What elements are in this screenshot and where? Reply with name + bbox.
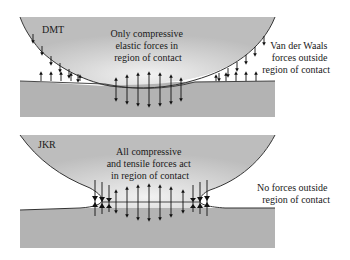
dmt-side-text: Van der Waals forces outside region of c… [262, 40, 330, 75]
contact-mechanics-diagram: DMT Only compressive elastic forces in r… [0, 0, 350, 260]
jkr-center-text: All compressive and tensile forces act i… [107, 146, 194, 181]
jkr-side-text: No forces outside region of contact [257, 182, 330, 205]
dmt-substrate [20, 81, 275, 117]
jkr-substrate [20, 208, 275, 248]
dmt-center-text: Only compressive elastic forces in regio… [111, 28, 186, 63]
jkr-model-label: JKR [38, 139, 56, 150]
dmt-panel: DMT Only compressive elastic forces in r… [20, 17, 330, 117]
dmt-model-label: DMT [42, 24, 64, 35]
jkr-panel: JKR All compressive and tensile forces a… [20, 135, 330, 248]
